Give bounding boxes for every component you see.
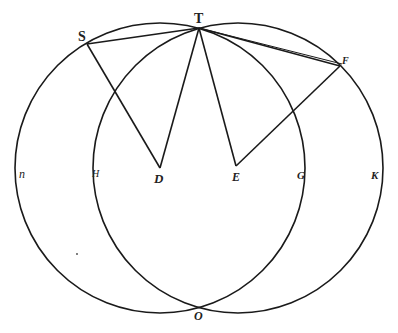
chord-TF-outer: [199, 28, 342, 64]
arc-label-H: H: [92, 169, 99, 179]
point-label-F: F: [342, 56, 349, 66]
segment-TE: [199, 28, 236, 166]
point-label-D: D: [154, 172, 163, 185]
point-label-S: S: [78, 30, 86, 44]
chord-ST: [87, 28, 199, 44]
segment-TD: [160, 28, 199, 168]
segment-EF: [236, 66, 340, 166]
arc-label-n: n: [19, 168, 25, 180]
diagram-svg: [0, 0, 398, 333]
point-label-E: E: [232, 171, 240, 183]
stray-dot: [76, 253, 78, 255]
point-label-O: O: [194, 310, 203, 322]
segment-SD: [87, 44, 160, 168]
arc-label-K: K: [371, 170, 378, 181]
geometry-diagram: T S F D E O n H G K: [0, 0, 398, 333]
arc-label-G: G: [297, 170, 305, 181]
point-label-T: T: [194, 12, 203, 26]
